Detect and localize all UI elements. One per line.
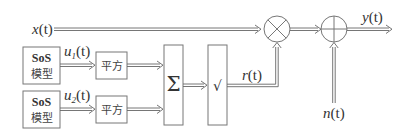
x-arg: (t) [39,21,53,38]
sqrt-symbol: √ [213,78,222,94]
square-block-1: 平方 [96,52,127,79]
x-input-label: x(t) [31,21,53,38]
x-signal-line [54,25,261,34]
n-input-label: n(t) [323,105,345,122]
square2-label: 平方 [101,103,123,117]
sum-to-sqrt-line [183,81,207,90]
sos1-title: SoS [32,51,52,65]
sqrt-block: √ [208,45,227,125]
square2-to-sum-line [127,105,163,114]
n-signal-line [330,43,339,104]
r-label: r(t) [242,67,262,84]
sos2-title: SoS [32,95,52,109]
y-output-label: y(t) [360,9,383,26]
u2-signal-line [60,105,95,114]
multiplier-node [264,16,290,42]
adder-node [321,16,347,42]
sigma-symbol: Σ [166,72,180,96]
square-block-2: 平方 [96,96,127,123]
sos2-subtitle: 模型 [31,111,53,125]
sum-block: Σ [164,45,183,125]
u2-label: u2(t) [64,87,90,105]
u1-label: u1(t) [64,43,90,61]
square1-label: 平方 [101,59,123,73]
square1-to-sum-line [127,61,163,70]
mult-to-adder-line [290,25,321,34]
sos-model-block-2: SoS 模型 [23,91,60,128]
y-output-line [347,25,392,34]
sos-model-block-1: SoS 模型 [23,47,60,84]
u1-signal-line [60,61,95,70]
signal-flow-diagram: x(t) SoS 模型 u1(t) 平方 SoS 模型 u2(t) [0,0,412,139]
sos1-subtitle: 模型 [31,67,53,81]
